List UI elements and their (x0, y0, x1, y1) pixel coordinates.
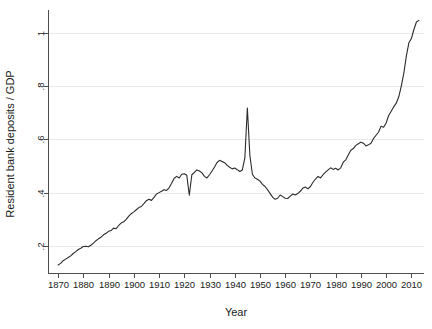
x-tick-label: 1920 (174, 279, 195, 290)
gridlines-group (48, 34, 424, 247)
x-axis-title: Year (225, 306, 248, 318)
y-tick-label: .8 (35, 83, 46, 91)
xtick-labels-group: 1870188018901900191019201930194019501960… (48, 279, 422, 290)
x-tick-label: 1910 (149, 279, 170, 290)
x-tick-label: 1940 (225, 279, 246, 290)
data-line-series (58, 20, 419, 265)
x-tick-label: 1890 (99, 279, 120, 290)
y-tick-label: .6 (35, 136, 46, 144)
x-tick-label: 1970 (300, 279, 321, 290)
data-series-group (58, 20, 419, 265)
x-tick-label: 1990 (351, 279, 372, 290)
x-tick-label: 1870 (48, 279, 69, 290)
y-tick-label: .2 (35, 243, 46, 251)
ytick-labels-group: .2.4.6.81 (35, 31, 46, 251)
x-tick-label: 1880 (73, 279, 94, 290)
x-tick-label: 1960 (275, 279, 296, 290)
line-chart: 1870188018901900191019201930194019501960… (0, 0, 432, 329)
x-tick-label: 1980 (326, 279, 347, 290)
y-axis-title: Resident bank deposits / GDP (4, 70, 16, 217)
xtick-marks-group (59, 274, 412, 279)
y-tick-label: .4 (35, 190, 46, 198)
chart-container: 1870188018901900191019201930194019501960… (0, 0, 432, 329)
x-tick-label: 1950 (250, 279, 271, 290)
x-tick-label: 2000 (376, 279, 397, 290)
y-tick-label: 1 (35, 31, 46, 36)
x-tick-label: 2010 (401, 279, 422, 290)
x-tick-label: 1930 (200, 279, 221, 290)
x-tick-label: 1900 (124, 279, 145, 290)
